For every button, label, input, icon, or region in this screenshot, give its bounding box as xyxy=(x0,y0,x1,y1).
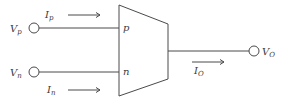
in-label: In xyxy=(46,84,56,97)
vn-label: Vn xyxy=(10,67,22,80)
vp-label: Vp xyxy=(10,23,22,36)
vo-label: VO xyxy=(262,46,275,59)
input-n-terminal xyxy=(29,67,39,77)
io-label: IO xyxy=(193,65,204,78)
amplifier-block xyxy=(119,5,168,96)
block-diagram: Vp Vn Ip In p n IO VO xyxy=(0,0,286,105)
input-p-terminal xyxy=(29,23,39,33)
output-terminal xyxy=(249,46,259,56)
ip-label: Ip xyxy=(44,9,54,22)
pin-p-label: p xyxy=(123,22,130,33)
current-ip-arrow-icon xyxy=(68,13,100,18)
current-in-arrow-icon xyxy=(68,88,100,93)
pin-n-label: n xyxy=(123,66,129,77)
current-io-arrow-icon xyxy=(192,60,224,65)
